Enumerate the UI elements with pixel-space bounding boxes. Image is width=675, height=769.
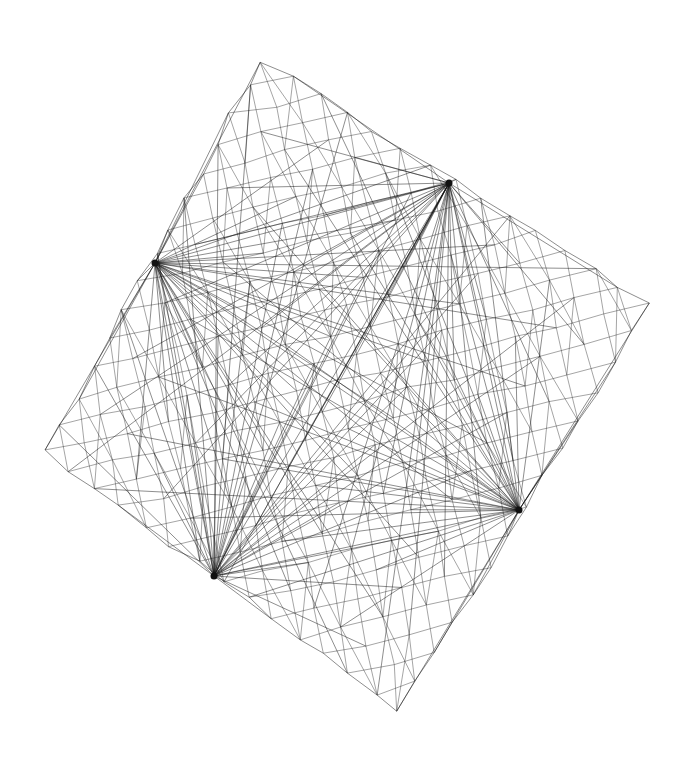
lattice-edge: [604, 303, 650, 314]
lattice-edge: [202, 292, 207, 367]
lattice-edge: [505, 280, 550, 293]
lattice-edge: [261, 132, 271, 178]
lattice-edge: [386, 173, 421, 239]
lattice-edge: [389, 284, 431, 297]
hub-spoke-edge: [155, 165, 431, 263]
hub-spoke-edge: [322, 183, 449, 412]
border-edge: [431, 165, 456, 179]
lattice-edge: [464, 536, 508, 546]
lattice-edge: [334, 445, 375, 458]
border-edge: [94, 489, 118, 506]
lattice-edge: [154, 453, 190, 518]
lattice-edge: [308, 563, 314, 609]
lattice-edge: [467, 226, 505, 293]
lattice-edge: [121, 310, 159, 377]
lattice-edge: [294, 272, 331, 337]
lattice-edges: [45, 62, 649, 711]
lattice-edge: [84, 443, 94, 489]
hub-spoke-edge: [351, 233, 520, 510]
lattice-edge: [616, 287, 618, 362]
border-edge: [526, 475, 542, 507]
lattice-edge: [438, 531, 473, 595]
lattice-edge: [245, 150, 285, 164]
hub-spoke-edge: [481, 198, 519, 510]
lattice-edge: [177, 336, 218, 347]
lattice-edge: [271, 496, 309, 563]
hub-spoke-edge: [321, 94, 519, 510]
hub-spoke-edge: [449, 183, 513, 461]
hub-spoke-edge: [519, 280, 550, 510]
lattice-edge: [260, 62, 277, 107]
lattice-edge: [159, 367, 203, 377]
lattice-edge: [478, 386, 525, 394]
lattice-edge: [329, 140, 342, 187]
hub-spoke-edge: [214, 250, 379, 576]
lattice-edge: [249, 591, 291, 598]
hub-spoke-edge: [444, 183, 449, 576]
lattice-edge: [95, 366, 101, 414]
lattice-edge: [254, 391, 296, 402]
hub-spoke-edge: [341, 510, 519, 627]
hub-spoke-edge: [214, 363, 314, 576]
border-edge: [323, 653, 347, 673]
lattice-edge: [540, 356, 578, 421]
hub-spoke-edge: [155, 197, 296, 263]
lattice-edge: [438, 531, 444, 576]
lattice-edge: [451, 245, 495, 255]
lattice-edge: [277, 107, 285, 149]
lattice-edge: [459, 304, 496, 368]
lattice-edge: [145, 407, 154, 454]
lattice-edge: [355, 158, 367, 203]
border-edge: [578, 393, 598, 421]
border-edge: [224, 582, 249, 597]
lattice-edge: [303, 123, 313, 170]
hub-spoke-edge: [184, 198, 214, 576]
lattice-edge: [419, 425, 462, 435]
border-edge: [565, 251, 596, 269]
lattice-edge: [574, 287, 617, 297]
hub-spoke-edge: [155, 263, 263, 450]
lattice-edge: [363, 277, 370, 326]
lattice-edge: [540, 356, 549, 401]
lattice-edge: [136, 479, 146, 528]
hub-spoke-edge: [383, 183, 449, 493]
lattice-edge: [550, 269, 597, 280]
border-edge: [598, 362, 615, 393]
lattice-edge: [334, 570, 377, 582]
hub-spoke-edge: [95, 366, 214, 576]
lattice-edge: [208, 281, 250, 292]
hub-spoke-edge: [449, 183, 584, 344]
lattice-edge: [426, 531, 438, 605]
lattice-edge: [380, 361, 426, 373]
border-edge: [300, 640, 323, 653]
lattice-edge: [507, 402, 549, 413]
border-edge: [146, 528, 168, 547]
lattice-edge: [321, 94, 329, 140]
lattice-edge: [322, 458, 334, 534]
hub-lower-left-node: [211, 573, 218, 580]
lattice-edge: [59, 415, 100, 425]
hub-spoke-edge: [348, 429, 519, 510]
lattice-edge: [347, 665, 394, 674]
hub-hub-edge: [155, 263, 214, 576]
lattice-edge: [145, 395, 187, 406]
lattice-edge: [338, 380, 349, 429]
hub-hub-edge: [449, 183, 519, 510]
lattice-edge: [227, 178, 271, 189]
lattice-edge: [136, 468, 180, 479]
lattice-edge: [525, 386, 532, 432]
lattice-edge: [510, 216, 520, 263]
hub-spoke-edge: [249, 510, 519, 597]
hub-spoke-edge: [155, 263, 232, 507]
hub-spoke-edge: [214, 576, 402, 588]
lattice-edge: [433, 330, 441, 408]
hub-spoke-edge: [45, 263, 155, 450]
hub-spoke-edge: [449, 183, 617, 287]
lattice-edge: [213, 218, 250, 281]
lattice-edge: [567, 298, 574, 375]
border-edge: [596, 269, 617, 288]
hub-upper-left-node: [152, 260, 159, 267]
hub-spoke-edge: [355, 158, 449, 183]
lattice-edge: [263, 178, 270, 254]
lattice-edge: [323, 646, 366, 653]
